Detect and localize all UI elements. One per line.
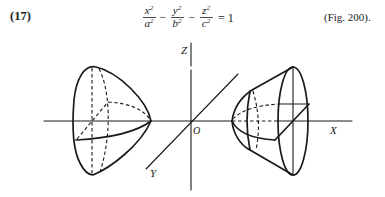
right-sheet-inner-section [247, 91, 250, 150]
minus-operator: − [189, 10, 196, 24]
left-sheet-front-section [76, 121, 151, 140]
right-sheet-front-section [232, 121, 275, 140]
denominator-c: c2 [202, 17, 211, 29]
origin-label: O [193, 125, 200, 136]
numerator-y: y2 [172, 4, 182, 16]
y-axis-label: Y [150, 167, 158, 179]
z-axis-label: Z [181, 44, 188, 56]
denominator-b: b2 [173, 17, 183, 29]
denominator-a: a2 [145, 17, 155, 29]
equation-number: (17) [10, 9, 31, 23]
coordinate-axes: Z O Y X [44, 43, 352, 190]
equation-line: (17) x2 a2 − y2 b2 − z2 c2 = 1 (Fig. 200… [10, 4, 371, 29]
minus-operator: − [160, 10, 167, 24]
numerator-z: z2 [201, 4, 210, 16]
right-sheet-back-section [233, 104, 279, 119]
x-axis-label: X [329, 124, 338, 136]
fraction-y-over-b: y2 b2 [171, 4, 184, 29]
right-sheet-diagonal [275, 104, 309, 140]
fraction-z-over-c: z2 c2 [200, 4, 213, 29]
textbook-page: (17) x2 a2 − y2 b2 − z2 c2 = 1 (Fig. 200… [0, 0, 385, 197]
figure-canvas: (17) x2 a2 − y2 b2 − z2 c2 = 1 (Fig. 200… [0, 0, 385, 197]
right-sheet-upper-outline [232, 67, 293, 121]
fraction-x-over-a: x2 a2 [143, 4, 156, 29]
numerator-x: x2 [144, 4, 154, 16]
equation-rhs: = 1 [218, 11, 234, 25]
figure-reference: (Fig. 200). [324, 11, 371, 24]
right-sheet-lower-outline [232, 121, 293, 175]
